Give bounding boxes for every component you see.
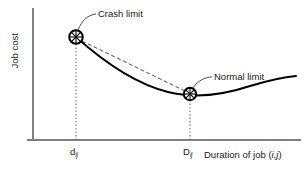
x-tick-crash-sub: ij <box>75 151 78 158</box>
x-tick-normal-sub: ij <box>190 151 193 158</box>
normal-limit-marker <box>184 88 196 100</box>
crash-limit-leader-line <box>78 14 96 30</box>
cost-duration-chart: Job cost Duration of job (i,j) Crash lim… <box>0 0 308 172</box>
linear-approximation-line <box>82 41 185 91</box>
chart-canvas <box>0 0 308 172</box>
x-axis-label-close: ) <box>278 149 281 160</box>
normal-limit-annotation: Normal limit <box>214 72 264 82</box>
x-tick-normal-main: D <box>183 146 190 157</box>
cost-duration-curve <box>76 37 296 95</box>
x-tick-label-crash-duration: dij <box>70 147 78 159</box>
y-axis-label: Job cost <box>10 20 20 82</box>
x-tick-label-normal-duration: Dij <box>183 147 192 159</box>
crash-limit-marker <box>69 30 83 44</box>
x-axis-label-main: Duration of job ( <box>204 149 272 160</box>
crash-limit-annotation: Crash limit <box>98 9 143 19</box>
normal-limit-leader-line <box>193 77 212 88</box>
x-axis-label: Duration of job (i,j) <box>204 150 282 160</box>
